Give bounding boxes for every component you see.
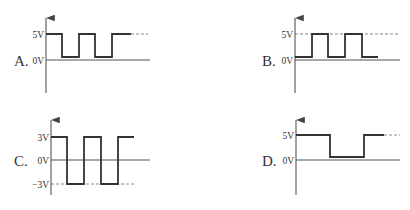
- voltage-tick-label: 0V: [37, 156, 49, 166]
- option-d-panel: D.5V0V: [262, 120, 400, 195]
- voltage-tick-label: −3V: [32, 180, 49, 190]
- option-label: D.: [262, 153, 277, 169]
- voltage-tick-label: 5V: [281, 30, 293, 40]
- option-a-panel: A.5V0V: [14, 18, 150, 93]
- voltage-tick-label: 0V: [281, 56, 293, 66]
- option-label: A.: [14, 53, 29, 69]
- voltage-tick-label: 0V: [282, 156, 294, 166]
- voltage-tick-label: 0V: [32, 56, 44, 66]
- option-c-panel: C.3V0V−3V: [14, 120, 150, 195]
- option-label: B.: [262, 53, 276, 69]
- voltage-tick-label: 5V: [32, 30, 44, 40]
- square-waveform: [295, 34, 378, 57]
- option-b-panel: B.5V0V: [262, 18, 400, 93]
- square-waveform: [46, 34, 131, 57]
- voltage-tick-label: 5V: [282, 131, 294, 141]
- waveform-diagram: A.5V0V B.5V0V C.3V0V−3V D.5V0V: [0, 0, 410, 210]
- option-label: C.: [14, 153, 28, 169]
- square-waveform: [296, 135, 384, 157]
- voltage-tick-label: 3V: [37, 133, 49, 143]
